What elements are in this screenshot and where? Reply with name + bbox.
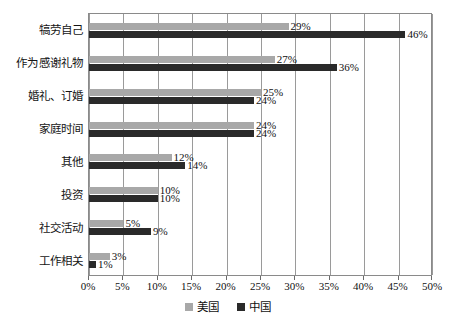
bar-cn-6 [89, 228, 151, 235]
x-axis-label-9: 45% [388, 280, 408, 293]
bars-layer: 29%46%27%36%25%24%24%24%12%14%10%10%5%9%… [89, 14, 431, 275]
y-axis-label-5: 投资 [0, 189, 83, 201]
y-axis-label-2: 婚礼、订婚 [0, 90, 83, 102]
bar-value-label-cn-4: 14% [187, 160, 207, 171]
x-axis-label-4: 20% [216, 280, 236, 293]
bar-value-label-cn-7: 1% [98, 259, 113, 270]
legend-item-0[interactable]: 美国 [185, 301, 219, 313]
chart-legend: 美国中国 [0, 299, 455, 315]
bar-group-7: 3%1% [89, 253, 431, 268]
bar-group-1: 27%36% [89, 56, 431, 71]
x-axis-label-5: 25% [250, 280, 270, 293]
x-axis-tick-labels: 0%5%10%15%20%25%30%35%40%45%50% [88, 280, 432, 296]
bar-group-2: 25%24% [89, 89, 431, 104]
legend-swatch-icon-0 [185, 303, 193, 311]
x-axis-label-0: 0% [81, 280, 96, 293]
bar-cn-7 [89, 261, 96, 268]
bar-group-0: 29%46% [89, 23, 431, 38]
bar-group-3: 24%24% [89, 122, 431, 137]
y-axis-label-0: 犒劳自己 [0, 24, 83, 36]
x-axis-label-10: 50% [422, 280, 442, 293]
y-axis-label-4: 其他 [0, 156, 83, 168]
bar-us-0 [89, 23, 289, 30]
y-axis-label-7: 工作相关 [0, 255, 83, 267]
bar-us-5 [89, 187, 158, 194]
bar-value-label-cn-1: 36% [339, 62, 359, 73]
legend-label-0: 美国 [197, 301, 219, 313]
bar-group-6: 5%9% [89, 220, 431, 235]
bar-us-1 [89, 56, 275, 63]
bar-value-label-cn-2: 24% [256, 95, 276, 106]
y-axis-label-6: 社交活动 [0, 222, 83, 234]
y-axis-category-labels: 犒劳自己作为感谢礼物婚礼、订婚家庭时间其他投资社交活动工作相关 [0, 14, 86, 276]
legend-swatch-icon-1 [237, 303, 245, 311]
x-axis-label-8: 40% [353, 280, 373, 293]
legend-label-1: 中国 [249, 301, 271, 313]
x-axis-label-1: 5% [115, 280, 130, 293]
bar-cn-2 [89, 97, 254, 104]
bar-cn-1 [89, 64, 337, 71]
x-axis-label-6: 30% [284, 280, 304, 293]
x-axis-label-2: 10% [147, 280, 167, 293]
bar-us-2 [89, 89, 261, 96]
legend-item-1[interactable]: 中国 [237, 301, 271, 313]
x-axis-label-3: 15% [181, 280, 201, 293]
bar-us-4 [89, 154, 172, 161]
bar-us-3 [89, 122, 254, 129]
bar-value-label-cn-3: 24% [256, 128, 276, 139]
plot-area: 29%46%27%36%25%24%24%24%12%14%10%10%5%9%… [88, 13, 432, 276]
bar-value-label-cn-5: 10% [160, 193, 180, 204]
bar-cn-4 [89, 162, 185, 169]
bar-cn-5 [89, 195, 158, 202]
bar-value-label-us-7: 3% [112, 251, 127, 262]
bar-group-5: 10%10% [89, 187, 431, 202]
bar-chart: 犒劳自己作为感谢礼物婚礼、订婚家庭时间其他投资社交活动工作相关 29%46%27… [0, 0, 455, 323]
y-axis-label-3: 家庭时间 [0, 123, 83, 135]
bar-cn-3 [89, 130, 254, 137]
bar-cn-0 [89, 31, 405, 38]
bar-us-6 [89, 220, 123, 227]
bar-value-label-cn-6: 9% [153, 226, 168, 237]
gridline [432, 14, 433, 275]
bar-group-4: 12%14% [89, 154, 431, 169]
bar-value-label-cn-0: 46% [407, 29, 427, 40]
x-axis-label-7: 35% [319, 280, 339, 293]
y-axis-label-1: 作为感谢礼物 [0, 57, 83, 69]
